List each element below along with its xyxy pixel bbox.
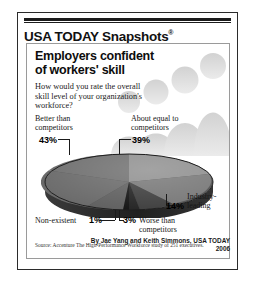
leader-line-worse-v [119, 210, 120, 220]
value-worse-than-competitors: 3% [123, 215, 136, 225]
leader-line-nonexistent-v [115, 210, 116, 220]
page-title: Employers confident of workers' skill [35, 50, 165, 77]
value-industry-leading: 14% [166, 201, 184, 211]
byline-year: 2006 [30, 245, 230, 253]
label-worse-than-competitors: Worse than competitors [139, 216, 195, 234]
byline-credit: By Jae Yang and Keith Simmons, USA TODAY [30, 237, 230, 245]
masthead-brand-text: USA TODAY Snapshots [24, 29, 168, 44]
chart-panel: Employers confident of workers' skill Ho… [26, 43, 230, 259]
masthead-rule-thick [24, 18, 231, 21]
label-better-than-competitors: Better than competitors [35, 114, 97, 132]
registered-mark-icon: ® [168, 29, 173, 36]
label-industry-leading: Industry-leading [187, 192, 230, 210]
snapshot-card: USA TODAY Snapshots® [17, 12, 238, 270]
label-about-equal-to-competitors: About equal to competitors [131, 114, 197, 132]
survey-question: How would you rate the overall skill lev… [35, 82, 153, 111]
masthead: USA TODAY Snapshots® [24, 18, 231, 45]
leader-line-nonexistent-h [99, 220, 115, 221]
masthead-brand: USA TODAY Snapshots® [24, 25, 231, 45]
masthead-rule-thin [24, 22, 231, 23]
byline: By Jae Yang and Keith Simmons, USA TODAY… [30, 237, 230, 254]
label-non-existent: Non-existent [35, 216, 76, 225]
leader-line-equal-h [119, 139, 131, 140]
